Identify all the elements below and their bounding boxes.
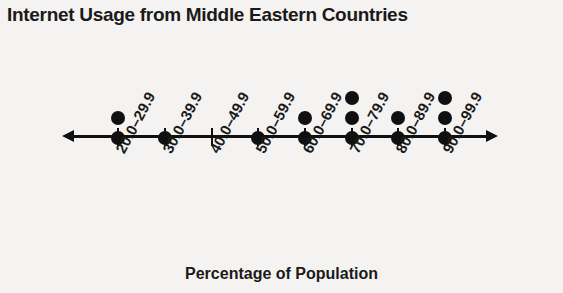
dot-plot-figure: Internet Usage from Middle Eastern Count… bbox=[0, 0, 563, 293]
data-dot bbox=[298, 111, 312, 125]
page-title: Internet Usage from Middle Eastern Count… bbox=[7, 4, 408, 26]
number-line-axis bbox=[0, 128, 563, 150]
data-dot bbox=[345, 111, 359, 125]
tick-label-group: 20.0–29.930.0–39.940.0–49.950.0–59.960.0… bbox=[0, 148, 563, 263]
data-dot bbox=[345, 91, 359, 105]
x-axis-label: Percentage of Population bbox=[0, 265, 563, 283]
data-dot bbox=[438, 111, 452, 125]
axis-arrow-right-icon bbox=[486, 130, 498, 142]
data-dot bbox=[391, 111, 405, 125]
data-dot bbox=[438, 91, 452, 105]
data-dot bbox=[111, 111, 125, 125]
